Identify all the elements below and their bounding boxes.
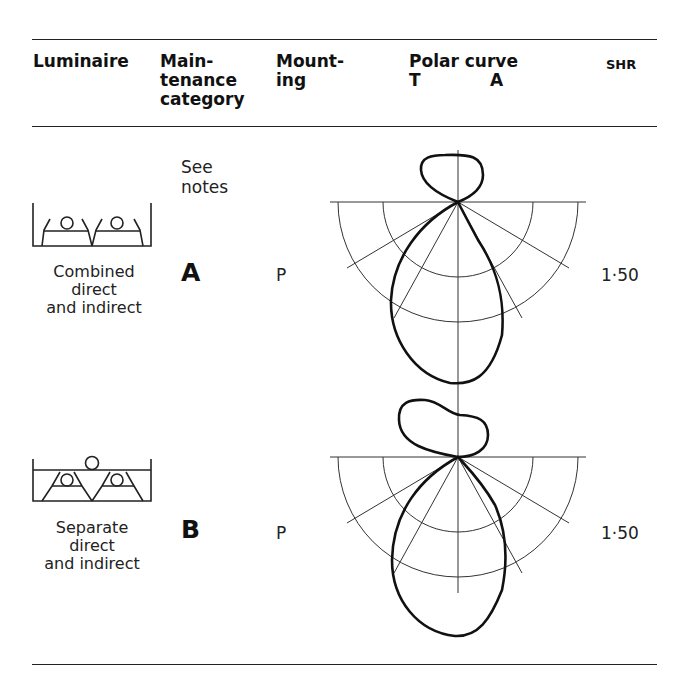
polar-curve-line [392,400,505,636]
polar-curve-line [391,155,503,384]
polar-grid [330,390,586,593]
combined-direct-indirect-luminaire-icon [33,203,151,246]
polar-curve-row2 [330,390,586,636]
polar-grid [330,150,586,390]
polar-curve-row1 [330,150,586,390]
diagram-graphics [0,0,682,675]
separate-direct-indirect-luminaire-icon [33,457,151,502]
